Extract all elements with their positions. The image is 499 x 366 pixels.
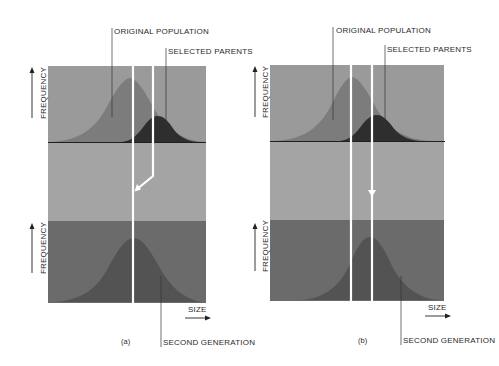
svg-text:SIZE: SIZE xyxy=(188,305,207,314)
panel-b-caption: (b) xyxy=(358,336,368,345)
panel-a-y-axis-top: FREQUENCY xyxy=(30,67,49,119)
panel-b-y-axis-bottom: FREQUENCY xyxy=(253,220,271,272)
right-arrow-icon xyxy=(205,316,211,321)
panel-a-caption: (a) xyxy=(121,337,131,346)
up-arrow-icon xyxy=(30,67,35,73)
panel-b-y-axis-top: FREQUENCY xyxy=(253,66,271,118)
svg-text:FREQUENCY: FREQUENCY xyxy=(261,220,270,272)
panel-b-second-generation-label: SECOND GENERATION xyxy=(403,336,495,345)
up-arrow-icon xyxy=(253,66,258,72)
panel-b-original-population-label: ORIGINAL POPULATION xyxy=(336,26,431,35)
up-arrow-icon xyxy=(253,223,258,229)
panel-b: ORIGINAL POPULATION SELECTED PARENTS SEC… xyxy=(253,26,496,345)
panel-a-original-population-label: ORIGINAL POPULATION xyxy=(114,27,209,36)
panel-a-second-generation-label: SECOND GENERATION xyxy=(163,338,255,347)
panel-a: ORIGINAL POPULATION SELECTED PARENTS SEC… xyxy=(30,27,256,347)
panel-b-x-axis: SIZE xyxy=(425,303,451,319)
panel-b-selected-parents-label: SELECTED PARENTS xyxy=(387,45,472,54)
panel-b-middle-band xyxy=(270,141,444,220)
right-arrow-icon xyxy=(445,314,451,319)
panel-a-x-axis: SIZE xyxy=(185,305,211,321)
up-arrow-icon xyxy=(30,223,35,229)
selection-diagram: ORIGINAL POPULATION SELECTED PARENTS SEC… xyxy=(0,0,499,366)
svg-text:FREQUENCY: FREQUENCY xyxy=(39,222,48,274)
panel-a-selected-parents-label: SELECTED PARENTS xyxy=(168,47,253,56)
svg-text:FREQUENCY: FREQUENCY xyxy=(261,66,270,118)
panel-a-y-axis-bottom: FREQUENCY xyxy=(30,222,49,274)
svg-text:FREQUENCY: FREQUENCY xyxy=(39,67,48,119)
panel-a-middle-band xyxy=(48,143,206,221)
svg-text:SIZE: SIZE xyxy=(428,303,447,312)
